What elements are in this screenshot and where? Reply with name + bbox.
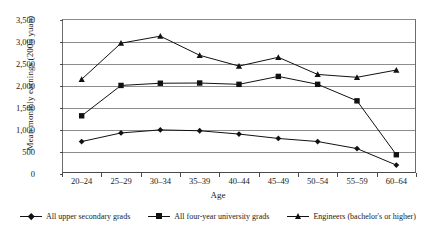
x-axis-title: Age [0,190,436,200]
data-point-marker [315,82,320,87]
y-tick-label: 2,000 [0,81,35,91]
x-tick-label: 20–24 [60,176,104,186]
data-point-marker [118,130,124,136]
data-point-marker [197,52,203,58]
data-point-marker [157,33,163,39]
x-tick-label: 50–54 [296,176,340,186]
data-point-marker [275,136,281,142]
data-point-marker [197,80,202,85]
y-tick-label: 1,000 [0,125,35,135]
data-point-marker [393,67,399,73]
y-tick-label: 1,500 [0,103,35,113]
series-line [82,36,397,79]
series-line [82,76,397,154]
x-tick-label: 35–39 [178,176,222,186]
data-point-marker [79,139,85,145]
data-point-marker [315,139,321,145]
data-point-marker [197,128,203,134]
data-point-marker [276,74,281,79]
x-tick-label: 30–34 [138,176,182,186]
y-tick-label: 2,500 [0,59,35,69]
legend-label: Engineers (bachelor's or higher) [313,212,416,221]
legend-label: All upper secondary grads [46,212,130,221]
x-tick-label: 60–64 [374,176,418,186]
y-tick-label: 500 [0,147,35,157]
series-diamond [79,127,399,168]
data-point-marker [158,81,163,86]
data-point-marker [354,146,360,152]
chart-legend: All upper secondary gradsAll four-year u… [0,212,436,221]
series-square [79,74,399,158]
x-tick-label: 40–44 [217,176,261,186]
triangle-marker-icon [287,212,309,221]
diamond-marker-icon [20,212,42,221]
data-point-marker [354,98,359,103]
data-point-marker [394,152,399,157]
series-layer [62,19,416,173]
x-tick-label: 25–29 [99,176,143,186]
data-point-marker [118,83,123,88]
square-marker-icon [148,212,170,221]
data-point-marker [236,131,242,137]
data-point-marker [236,82,241,87]
y-tick-label: 3,000 [0,37,35,47]
legend-item-3[interactable]: Engineers (bachelor's or higher) [287,212,416,221]
data-point-marker [157,127,163,133]
line-chart: Mean monthly earnings (2005 yuan) 05001,… [0,0,436,236]
y-tick-label: 0 [0,169,35,179]
legend-item-1[interactable]: All upper secondary grads [20,212,130,221]
y-tick-label: 3,500 [0,15,35,25]
legend-label: All four-year university grads [174,212,269,221]
x-tick-label: 45–49 [256,176,300,186]
x-tick-label: 55–59 [335,176,379,186]
data-point-marker [393,162,399,168]
series-triangle [79,33,400,82]
data-point-marker [79,113,84,118]
legend-item-2[interactable]: All four-year university grads [148,212,269,221]
data-point-marker [275,54,281,60]
